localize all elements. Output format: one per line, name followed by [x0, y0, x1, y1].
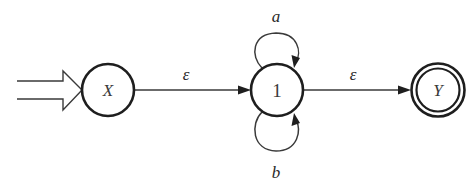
transition-label: a [272, 7, 281, 26]
state-x: X [82, 64, 134, 116]
transition-label: ε [183, 65, 190, 84]
transition-1-to-y: ε [303, 65, 411, 95]
self-loop-a: a [255, 7, 300, 68]
state-y-accepting: Y [412, 64, 465, 117]
arrowhead-icon [292, 113, 301, 126]
start-arrow-icon [17, 71, 82, 110]
state-1: 1 [251, 64, 303, 116]
transition-label: b [272, 163, 281, 182]
arrowhead-icon [398, 86, 411, 95]
transition-x-to-1: ε [134, 65, 251, 95]
state-label: X [102, 81, 114, 100]
arrowhead-icon [238, 86, 251, 95]
state-label: 1 [272, 80, 282, 101]
state-label: Y [433, 81, 444, 100]
self-loop-b: b [255, 112, 300, 182]
transition-label: ε [350, 65, 357, 84]
automaton-diagram: ε ε a b X 1 Y [0, 0, 474, 186]
